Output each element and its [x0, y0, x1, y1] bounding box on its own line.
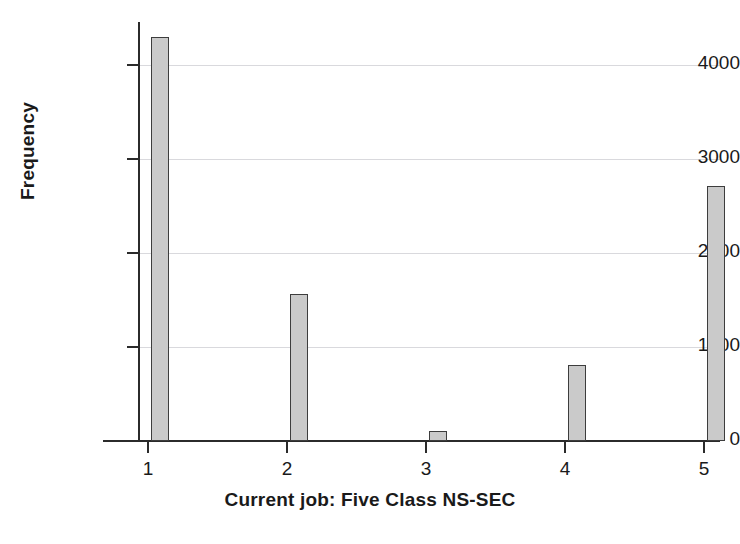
gridline-3000 [140, 159, 720, 160]
x-tick-label-4: 4 [535, 458, 595, 480]
gridline-2000 [140, 253, 720, 254]
bar-chart-figure: Frequency 4000 3000 2000 1000 0 1 2 3 4 … [0, 0, 740, 544]
x-tick-mark-5 [703, 442, 705, 453]
gridline-4000 [140, 65, 720, 66]
bar-category-3[interactable] [429, 431, 447, 441]
y-tick-label-4000: 4000 [636, 52, 740, 74]
y-tick-mark-4000 [127, 64, 138, 66]
x-tick-label-2: 2 [257, 458, 317, 480]
bar-category-4[interactable] [568, 365, 586, 441]
y-tick-label-3000: 3000 [636, 146, 740, 168]
x-tick-mark-3 [425, 442, 427, 453]
y-tick-mark-2000 [127, 252, 138, 254]
bar-category-2[interactable] [290, 294, 308, 441]
x-axis-title: Current job: Five Class NS-SEC [0, 489, 740, 511]
gridline-1000 [140, 347, 720, 348]
x-tick-mark-4 [564, 442, 566, 453]
x-tick-label-5: 5 [674, 458, 734, 480]
y-tick-mark-1000 [127, 346, 138, 348]
x-tick-label-3: 3 [396, 458, 456, 480]
bar-category-1[interactable] [151, 37, 169, 441]
y-tick-mark-3000 [127, 158, 138, 160]
y-axis-line [138, 22, 140, 441]
y-axis-title: Frequency [10, 86, 46, 216]
x-tick-mark-1 [147, 442, 149, 453]
x-tick-label-1: 1 [118, 458, 178, 480]
x-tick-mark-2 [286, 442, 288, 453]
y-tick-mark-0 [127, 440, 138, 442]
bar-category-5[interactable] [707, 186, 725, 441]
x-axis-line [103, 440, 720, 442]
